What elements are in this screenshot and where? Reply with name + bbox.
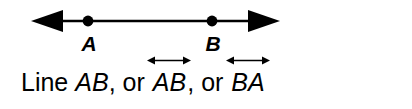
arrow-right-icon — [248, 10, 280, 32]
geometry-figure: A B Line AB , or AB , or — [0, 0, 412, 109]
caption-comma-1: , — [109, 70, 116, 95]
caption-word-line: Line — [21, 70, 68, 95]
caption-name-ba-arrow: BA — [231, 68, 264, 96]
caption-name-ab-arrow: AB — [153, 68, 186, 96]
caption-or-2: or — [201, 70, 223, 95]
arrow-left-icon — [31, 10, 63, 32]
caption-or-1: or — [123, 70, 145, 95]
point-a-label: A — [74, 33, 104, 54]
caption: Line AB , or AB , or BA — [21, 70, 266, 104]
caption-comma-2: , — [187, 70, 194, 95]
point-b-dot — [207, 16, 218, 27]
point-b-label: B — [198, 33, 228, 54]
caption-name-ab-plain: AB — [75, 70, 108, 95]
line-notation-ab: AB — [152, 70, 187, 95]
line-notation-ba: BA — [230, 70, 265, 95]
point-a-dot — [83, 16, 94, 27]
